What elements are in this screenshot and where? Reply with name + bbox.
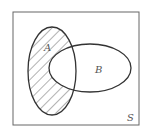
venn-diagram: A B S <box>0 0 149 137</box>
universe-label: S <box>127 112 134 123</box>
set-a-label: A <box>43 42 51 53</box>
set-b-label: B <box>94 64 102 75</box>
